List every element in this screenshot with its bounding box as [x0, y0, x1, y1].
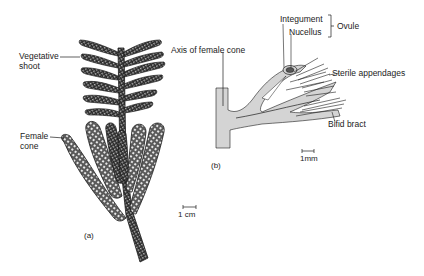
integument-leader [283, 24, 284, 68]
label-nucellus: Nucellus [289, 28, 322, 38]
label-vegetative-shoot-line2: shoot [19, 62, 40, 72]
label-ovule: Ovule [337, 22, 359, 32]
label-female-cone-line2: cone [20, 142, 38, 152]
label-bifid-bract: Bifid bract [328, 120, 366, 130]
scale-bar-1cm [183, 205, 196, 209]
vegetative-leaves-left [79, 40, 119, 117]
label-axis-of-female-cone: Axis of female cone [171, 46, 245, 56]
vegetative-leaves-right [124, 40, 165, 113]
panel-a-illustration [0, 0, 424, 276]
label-sterile-appendages: Sterile appendages [332, 69, 405, 79]
ovule-bracket [328, 15, 331, 37]
caption-panel-b: (b) [211, 161, 221, 171]
scale-label-1mm: 1mm [300, 154, 318, 164]
label-integument: Integument [280, 15, 323, 25]
caption-panel-a: (a) [84, 231, 94, 241]
female-cones [62, 121, 165, 221]
panel-b-illustration [216, 15, 346, 153]
scale-label-1cm: 1 cm [178, 210, 195, 220]
figure-canvas: Vegetative shoot Female cone 1 cm (a) Ax… [0, 0, 424, 276]
scale-bar-1mm [302, 149, 314, 153]
